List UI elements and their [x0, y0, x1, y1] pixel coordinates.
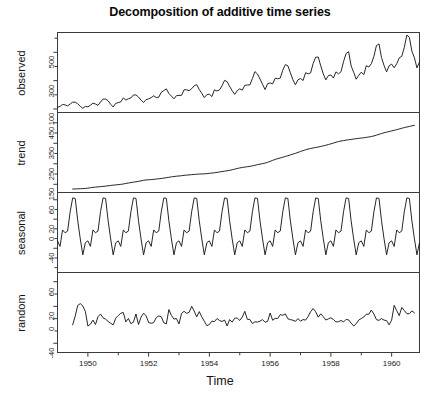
y-tick-label-observed: 500: [46, 52, 58, 72]
y-tick-label-seasonal: 0: [46, 229, 58, 249]
y-tick-label-trend: 350: [46, 143, 58, 163]
panel-frame-trend: [58, 113, 420, 193]
y-tick-label-observed: 300: [46, 81, 58, 101]
y-tick-label-trend: 250: [46, 164, 58, 184]
y-tick-label-seasonal: -40: [46, 248, 58, 268]
panel-frame-seasonal: [58, 193, 420, 273]
panel-frame-random: [58, 273, 420, 353]
series-seasonal: [58, 198, 420, 255]
x-tick-label: 1954: [189, 359, 229, 368]
series-observed: [58, 35, 420, 108]
x-tick-label: 1950: [68, 359, 108, 368]
y-tick-label-seasonal: 60: [46, 200, 58, 220]
y-axis-label-random: random: [14, 273, 28, 353]
y-tick-label-random: -40: [46, 343, 58, 363]
series-random: [73, 304, 415, 326]
panel-frame-observed: [58, 33, 420, 113]
y-axis-label-observed: observed: [14, 33, 28, 113]
series-trend: [73, 125, 415, 189]
y-axis-label-seasonal: seasonal: [14, 193, 28, 273]
y-tick-label-random: 0: [46, 319, 58, 339]
chart-canvas: [0, 0, 440, 399]
y-tick-label-random: 60: [46, 282, 58, 302]
y-axis-label-trend: trend: [14, 113, 28, 193]
x-tick-label: 1952: [129, 359, 169, 368]
x-tick-label: 1960: [372, 359, 412, 368]
x-tick-label: 1956: [250, 359, 290, 368]
x-tick-label: 1958: [311, 359, 351, 368]
y-tick-label-trend: 450: [46, 123, 58, 143]
decomposition-plot: Decomposition of additive time series Ti…: [0, 0, 440, 399]
